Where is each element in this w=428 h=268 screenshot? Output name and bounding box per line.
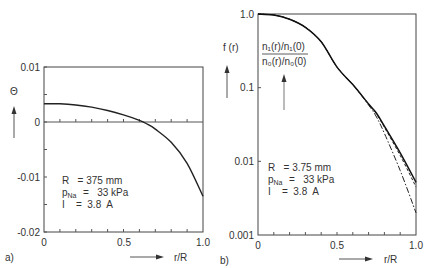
panel-b-ytick-1: 0.1 — [240, 82, 254, 93]
figure: 0.01 0 -0.01 -0.02 0 0.5 1.0 Θ a) r/R R … — [0, 0, 428, 268]
panel-b-ytick-0: 1.0 — [240, 9, 254, 20]
panel-a-param-R: R = 375 mm — [62, 175, 122, 186]
panel-a-xtick-1: 0.5 — [117, 237, 131, 248]
panel-a-label: a) — [5, 252, 14, 263]
panel-b-ytick-2: 0.01 — [235, 156, 255, 167]
panel-a-xlabel: r/R — [174, 252, 187, 263]
panel-a-param-p-value: = 33 kPa — [83, 187, 129, 198]
panel-b-x-arrow-icon — [339, 257, 373, 262]
panel-b-params: R = 3.75 mm pNa = 33 kPa I = 3.8 A — [268, 162, 335, 197]
panel-b-xlabel: r/R — [384, 254, 397, 265]
panel-a-y-arrow-icon — [12, 106, 17, 138]
panel-b-ytick-3: 0.001 — [229, 230, 254, 241]
panel-b-param-I: I = 3.8 A — [268, 186, 319, 197]
panel-b-y-arrow-icon — [225, 65, 230, 98]
panel-b-xtick-2: 1.0 — [409, 240, 423, 251]
panel-a-param-I: I = 3.8 A — [62, 199, 113, 210]
panel-b-label: b) — [220, 255, 229, 266]
panel-a-ylabel: Θ — [10, 86, 18, 97]
panel-a-x-arrow-icon — [130, 255, 164, 260]
panel-a-xtick-0: 0 — [41, 237, 47, 248]
panel-b-param-R: R = 3.75 mm — [268, 162, 331, 173]
panel-b: 1.0 0.1 0.01 0.001 0 0.5 1.0 f (r) n₁(r)… — [220, 9, 423, 266]
panel-a-ytick-0: 0.01 — [21, 62, 41, 73]
panel-b-curve-label: n₁(r)/n₁(0) n₀(r)/n₀(0) — [262, 41, 308, 67]
panel-b-xtick-1: 0.5 — [330, 240, 344, 251]
panel-b-n1-curve — [258, 14, 416, 187]
panel-b-ylabel: f (r) — [223, 42, 239, 53]
panel-a-params: R = 375 mm pNa = 33 kPa I = 3.8 A — [62, 175, 129, 210]
panel-a-ytick-3: -0.02 — [17, 227, 40, 238]
panel-a-xtick-2: 1.0 — [196, 237, 210, 248]
panel-a: 0.01 0 -0.01 -0.02 0 0.5 1.0 Θ a) r/R R … — [5, 62, 210, 263]
panel-b-param-p-value: = 33 kPa — [289, 174, 335, 185]
panel-b-curve-label-numerator: n₁(r)/n₁(0) — [262, 41, 305, 52]
panel-b-param-p: pNa — [268, 174, 283, 186]
panel-b-curve-label-arrow-icon — [282, 74, 287, 110]
panel-b-curve-label-denominator: n₀(r)/n₀(0) — [262, 56, 306, 67]
panel-a-param-p: pNa — [62, 187, 77, 199]
panel-a-ytick-1: 0 — [34, 117, 40, 128]
panel-b-f-curve — [258, 14, 416, 182]
panel-a-ytick-2: -0.01 — [17, 172, 40, 183]
panel-b-xtick-0: 0 — [255, 240, 261, 251]
